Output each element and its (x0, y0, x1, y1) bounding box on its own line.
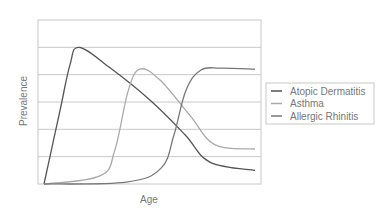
gridlines (38, 47, 261, 156)
y-axis-label: Prevalence (18, 76, 29, 126)
x-axis-label: Age (140, 194, 158, 205)
legend-label: Allergic Rhinitis (290, 111, 358, 122)
legend-label: Atopic Dermatitis (290, 86, 366, 97)
line-chart: Age Prevalence Atopic DermatitisAsthmaAl… (0, 0, 391, 214)
legend-label: Asthma (290, 98, 324, 109)
legend: Atopic DermatitisAsthmaAllergic Rhinitis (266, 83, 374, 124)
series-lines (44, 47, 255, 184)
